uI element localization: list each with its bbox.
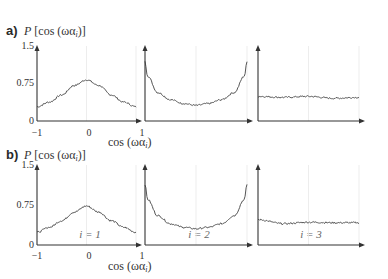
x-axis-arrow-icon	[359, 119, 365, 124]
xlabel-main: cos (ωα	[108, 135, 146, 149]
panel-2	[143, 45, 254, 124]
plot-panels	[35, 45, 366, 248]
row-a-ytick-zero: 0	[29, 115, 34, 126]
ylabel-main: P	[23, 24, 32, 38]
y-axis-arrow-icon	[35, 45, 40, 51]
row-a-xtick-left: −1	[32, 127, 43, 138]
row-b-label: b)	[6, 147, 18, 162]
y-axis-arrow-icon	[35, 164, 40, 170]
row-a-ytick-mid: 0.75	[17, 77, 35, 88]
row-b-ytick-zero: 0	[29, 239, 34, 250]
row-b-xtick-mid: 0	[87, 250, 92, 261]
row-b-xtick-left: −1	[32, 250, 43, 261]
ylabel-end: )]	[78, 24, 86, 38]
ylabel-end: )]	[78, 148, 86, 162]
row-a-ylabel: P[cos (ωαi)]	[23, 24, 86, 39]
panel-3	[256, 45, 366, 124]
y-axis-arrow-icon	[256, 45, 261, 51]
panel-1	[35, 45, 143, 124]
row-a-ytick-top: 1.5	[22, 40, 35, 51]
figure: a) P[cos (ωαi)] 1.5 0.75 0 −1 0 1 cos (ω…	[0, 0, 388, 279]
x-axis-arrow-icon	[136, 243, 142, 248]
y-axis-arrow-icon	[143, 45, 148, 51]
row-a-label: a)	[6, 23, 18, 38]
row-b-ytick-top: 1.5	[22, 159, 35, 170]
y-axis-arrow-icon	[143, 164, 148, 170]
row-a-xtick-mid: 0	[87, 127, 92, 138]
ylabel-rest: [cos (ωα	[34, 24, 76, 38]
row-b-xlabel: cos (ωαi)	[108, 259, 151, 274]
panel-label-i2: i = 2	[188, 228, 210, 240]
x-axis-arrow-icon	[247, 243, 253, 248]
x-axis-arrow-icon	[359, 243, 365, 248]
panel-label-i3: i = 3	[300, 228, 322, 240]
y-axis-arrow-icon	[256, 164, 261, 170]
xlabel-main: cos (ωα	[108, 259, 146, 273]
xlabel-end: )	[147, 135, 151, 149]
ylabel-rest: [cos (ωα	[34, 148, 76, 162]
x-axis-arrow-icon	[136, 119, 142, 124]
xlabel-end: )	[147, 259, 151, 273]
x-axis-arrow-icon	[247, 119, 253, 124]
row-b-ytick-mid: 0.75	[17, 199, 35, 210]
row-a-xlabel: cos (ωαi)	[108, 135, 151, 150]
panel-label-i1: i = 1	[79, 228, 100, 240]
